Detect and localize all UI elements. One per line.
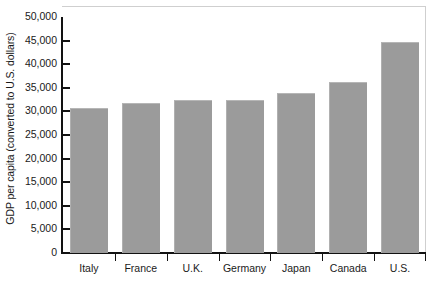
y-axis-tick-label: 15,000 <box>1 176 57 187</box>
bar-chart: GDP per capita (converted to U.S. dollar… <box>0 0 430 281</box>
y-axis-tick-label: 25,000 <box>1 129 57 140</box>
bar-italy <box>70 108 108 253</box>
x-axis-separator <box>374 253 375 261</box>
x-axis-label-italy: Italy <box>63 262 115 275</box>
x-axis-label-france: France <box>115 262 167 275</box>
bar-japan <box>277 93 315 253</box>
y-axis-tick-label: 45,000 <box>1 35 57 46</box>
x-axis-separator-end <box>425 253 426 261</box>
y-axis-tick-label: 30,000 <box>1 105 57 116</box>
y-axis-tick-label: 50,000 <box>1 11 57 22</box>
x-axis-label-u-k: U.K. <box>167 262 219 275</box>
y-axis-tick-label: 10,000 <box>1 200 57 211</box>
y-axis-tick-label: 40,000 <box>1 58 57 69</box>
x-axis-separator <box>270 253 271 261</box>
x-axis-label-u-s: U.S. <box>374 262 426 275</box>
y-axis-tick-label: 35,000 <box>1 82 57 93</box>
bar-canada <box>329 82 367 253</box>
bar-france <box>122 103 160 253</box>
y-axis-tick-label: 5,000 <box>1 223 57 234</box>
bar-u-s <box>381 42 419 253</box>
bar-u-k <box>174 100 212 253</box>
y-axis-tick-label: 20,000 <box>1 153 57 164</box>
bar-germany <box>226 100 264 253</box>
bars-layer <box>63 17 426 253</box>
x-axis-separator <box>167 253 168 261</box>
x-axis-separator <box>115 253 116 261</box>
y-axis-tick-label: 0 <box>1 247 57 258</box>
x-axis-separator <box>322 253 323 261</box>
x-axis-label-canada: Canada <box>322 262 374 275</box>
x-axis-separator <box>219 253 220 261</box>
x-axis-label-japan: Japan <box>270 262 322 275</box>
x-axis-label-germany: Germany <box>219 262 271 275</box>
